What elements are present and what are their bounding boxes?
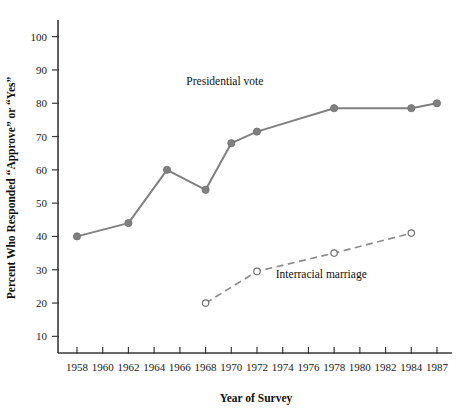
y-tick-label: 50 xyxy=(36,197,48,209)
data-point-marker xyxy=(433,100,440,107)
x-tick-label: 1960 xyxy=(92,361,115,373)
y-tick-label: 90 xyxy=(36,64,48,76)
x-tick-label: 1978 xyxy=(323,361,346,373)
data-point-marker xyxy=(228,140,235,147)
x-tick-label: 1964 xyxy=(143,361,166,373)
line-chart-canvas: 102030405060708090100 195819601962196419… xyxy=(0,0,459,411)
y-axis-title: Percent Who Responded “Approve” or “Yes” xyxy=(5,77,18,300)
x-tick-label: 1968 xyxy=(195,361,218,373)
series-line xyxy=(77,103,437,236)
data-point-marker xyxy=(408,230,414,236)
x-tick-label: 1966 xyxy=(169,361,192,373)
data-point-marker xyxy=(125,220,132,227)
series-presidential-vote xyxy=(73,100,440,240)
y-axis-ticks: 102030405060708090100 xyxy=(31,31,60,343)
y-tick-label: 20 xyxy=(36,297,48,309)
x-tick-label: 1972 xyxy=(246,361,268,373)
x-tick-label: 1962 xyxy=(117,361,139,373)
x-tick-label: 1987 xyxy=(426,361,449,373)
x-axis-ticks: 1958196019621964196619681970197219741976… xyxy=(66,347,449,373)
y-tick-label: 40 xyxy=(36,230,48,242)
y-tick-label: 60 xyxy=(36,164,48,176)
data-point-marker xyxy=(163,166,170,173)
data-series-layer xyxy=(73,100,440,307)
y-tick-label: 30 xyxy=(36,264,48,276)
x-tick-label: 1974 xyxy=(272,361,295,373)
y-tick-label: 10 xyxy=(36,330,48,342)
chart-figure: 102030405060708090100 195819601962196419… xyxy=(0,0,459,411)
data-point-marker xyxy=(331,250,337,256)
data-point-marker xyxy=(253,128,260,135)
x-tick-label: 1958 xyxy=(66,361,89,373)
data-point-marker xyxy=(202,186,209,193)
data-point-marker xyxy=(331,105,338,112)
y-tick-label: 100 xyxy=(31,31,48,43)
series-label-presidential-vote: Presidential vote xyxy=(186,75,263,87)
y-tick-label: 70 xyxy=(36,131,48,143)
chart-annotations: Presidential voteInterracial marriage xyxy=(186,75,366,281)
series-label-interracial-marriage: Interracial marriage xyxy=(276,268,367,281)
x-tick-label: 1970 xyxy=(220,361,243,373)
data-point-marker xyxy=(408,105,415,112)
data-point-marker xyxy=(73,233,80,240)
x-tick-label: 1980 xyxy=(349,361,372,373)
plot-area: 102030405060708090100 195819601962196419… xyxy=(31,20,453,373)
x-tick-label: 1984 xyxy=(400,361,423,373)
data-point-marker xyxy=(254,268,260,274)
y-tick-label: 80 xyxy=(36,97,48,109)
data-point-marker xyxy=(202,300,208,306)
x-tick-label: 1976 xyxy=(297,361,320,373)
x-tick-label: 1982 xyxy=(375,361,397,373)
x-axis-title: Year of Survey xyxy=(220,392,293,405)
